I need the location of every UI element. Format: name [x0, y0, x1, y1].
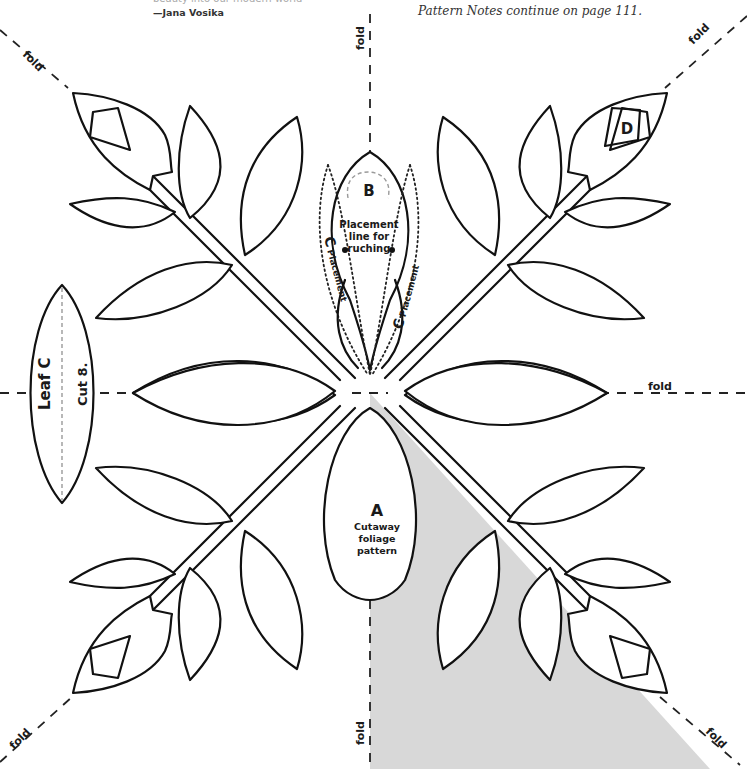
piece-d-label: D [621, 120, 633, 138]
piece-b-line3: ruching [348, 243, 391, 254]
piece-b-line1: Placement [339, 219, 399, 230]
quadrant-bottom-left [70, 363, 355, 693]
leaf-c-instruction: Cut 8. [75, 362, 90, 406]
leaf-c-instruction-group: Cut 8. [75, 362, 90, 406]
fold-label-bottom-right: fold [703, 725, 729, 751]
fold-label-bottom-center-group: fold [354, 721, 367, 745]
piece-a-line3: pattern [357, 545, 397, 556]
piece-b-letter: B [363, 182, 374, 200]
fold-label-top-left-group: fold [20, 48, 46, 74]
fold-label-top-left: fold [20, 48, 46, 74]
fold-label-bottom-left: fold [7, 726, 33, 752]
fold-label-right-center: fold [648, 380, 672, 393]
piece-b-line2: line for [349, 231, 389, 242]
fold-label-top-center-group: fold [354, 26, 367, 50]
leaf-c-title-group: Leaf C [36, 357, 54, 410]
leaf-c-title: Leaf C [36, 357, 54, 410]
fold-label-bottom-center: fold [354, 721, 367, 745]
piece-a-line2: foliage [359, 533, 396, 544]
fold-label-top-right: fold [686, 21, 712, 47]
fold-label-bottom-left-group: fold [7, 726, 33, 752]
fold-label-top-right-group: fold [686, 21, 712, 47]
fold-label-bottom-right-group: fold [703, 725, 729, 751]
piece-a-line1: Cutaway [354, 521, 401, 532]
quilt-pattern-diagram: D B Placement line for ruching C Placeme… [0, 0, 747, 769]
fold-label-top-center: fold [354, 26, 367, 50]
piece-a-letter: A [371, 501, 384, 520]
fold-line-bottom-left [0, 697, 72, 762]
piece-c-right-letter: C [389, 317, 407, 331]
